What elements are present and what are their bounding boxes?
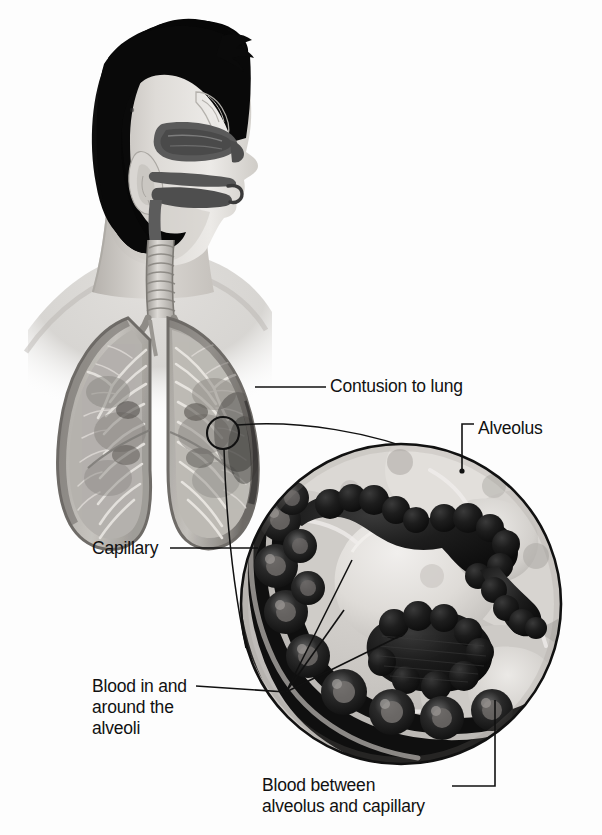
label-blood-in-and-around-alveoli: Blood in and around the alveoli	[92, 676, 187, 739]
label-capillary: Capillary	[92, 538, 158, 559]
label-alveolus: Alveolus	[478, 418, 543, 439]
label-contusion-to-lung: Contusion to lung	[330, 376, 463, 397]
label-blood-between-alveolus-and-capillary: Blood between alveolus and capillary	[262, 775, 425, 817]
leader-alveolus-dot	[459, 468, 464, 473]
